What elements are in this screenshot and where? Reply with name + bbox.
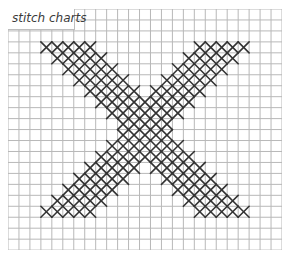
cross-stitch [107, 86, 118, 97]
cross-stitch [205, 64, 216, 75]
cross-stitch [63, 184, 74, 195]
stitch-chart-grid [8, 9, 282, 250]
cross-stitch [140, 151, 151, 162]
cross-stitch [150, 119, 161, 130]
cross-stitch [227, 195, 238, 206]
cross-stitch [172, 86, 183, 97]
cross-stitch [172, 141, 183, 152]
title-label-box: stitch charts [8, 9, 75, 30]
cross-stitch [107, 97, 118, 108]
cross-stitch [74, 206, 85, 217]
cross-stitch [172, 184, 183, 195]
cross-stitch [52, 53, 63, 64]
cross-stitch [194, 206, 205, 217]
cross-stitch [216, 42, 227, 53]
cross-stitch [194, 64, 205, 75]
cross-stitch [74, 173, 85, 184]
cross-stitch [161, 119, 172, 130]
cross-stitch [85, 206, 96, 217]
cross-stitch [161, 173, 172, 184]
cross-stitch [107, 108, 118, 119]
cross-stitch [107, 75, 118, 86]
cross-stitch [140, 97, 151, 108]
cross-stitch [96, 86, 107, 97]
cross-stitch [96, 64, 107, 75]
cross-stitch [216, 64, 227, 75]
cross-stitch [107, 173, 118, 184]
cross-stitch [85, 42, 96, 53]
cross-stitch [150, 86, 161, 97]
cross-stitch [96, 53, 107, 64]
cross-stitch [107, 64, 118, 75]
cross-stitch [161, 86, 172, 97]
cross-stitch [161, 108, 172, 119]
cross-stitch [74, 42, 85, 53]
cross-stitch [172, 97, 183, 108]
cross-stitch [205, 75, 216, 86]
cross-stitch [74, 184, 85, 195]
cross-stitch [194, 75, 205, 86]
cross-stitch [194, 195, 205, 206]
cross-stitch [74, 75, 85, 86]
cross-stitch [140, 119, 151, 130]
cross-stitch [74, 53, 85, 64]
cross-stitch [118, 173, 129, 184]
cross-stitch [63, 206, 74, 217]
cross-stitch [140, 141, 151, 152]
cross-stitch [161, 141, 172, 152]
cross-stitch [140, 108, 151, 119]
cross-stitch [129, 162, 140, 173]
cross-stitch [107, 151, 118, 162]
cross-stitch [172, 151, 183, 162]
cross-stitch [85, 162, 96, 173]
cross-stitch [107, 162, 118, 173]
cross-stitch [172, 75, 183, 86]
cross-stitch [150, 141, 161, 152]
cross-stitch [118, 97, 129, 108]
cross-stitch [129, 141, 140, 152]
cross-stitch [129, 151, 140, 162]
cross-stitch [52, 206, 63, 217]
cross-stitch [118, 130, 129, 141]
cross-stitch [216, 206, 227, 217]
cross-stitch [205, 173, 216, 184]
cross-stitch [183, 195, 194, 206]
cross-stitch [129, 119, 140, 130]
cross-stitch [238, 42, 249, 53]
grid-svg [8, 9, 282, 250]
cross-stitch [118, 119, 129, 130]
cross-stitch [118, 141, 129, 152]
cross-stitch [63, 53, 74, 64]
cross-stitch [85, 64, 96, 75]
cross-stitch [96, 195, 107, 206]
cross-stitch [172, 173, 183, 184]
cross-stitch [52, 42, 63, 53]
cross-stitch [118, 75, 129, 86]
cross-stitch [85, 173, 96, 184]
cross-stitch [150, 162, 161, 173]
cross-stitch [96, 184, 107, 195]
cross-stitch [161, 162, 172, 173]
cross-stitch [183, 86, 194, 97]
cross-stitch [129, 130, 140, 141]
cross-stitch [205, 42, 216, 53]
cross-stitch [227, 206, 238, 217]
cross-stitch [183, 184, 194, 195]
cross-stitch [194, 53, 205, 64]
cross-stitch [129, 86, 140, 97]
cross-stitch [194, 162, 205, 173]
cross-stitch [161, 130, 172, 141]
cross-stitch [172, 108, 183, 119]
cross-stitch [183, 173, 194, 184]
cross-stitch [118, 108, 129, 119]
cross-stitch [118, 86, 129, 97]
cross-stitch [227, 53, 238, 64]
cross-stitch [150, 108, 161, 119]
cross-stitch [183, 151, 194, 162]
cross-stitch [74, 64, 85, 75]
cross-stitch [205, 195, 216, 206]
cross-stitch [183, 75, 194, 86]
cross-stitch [216, 53, 227, 64]
cross-stitch [183, 53, 194, 64]
cross-stitch [41, 206, 52, 217]
